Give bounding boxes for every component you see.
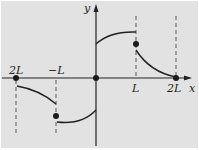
x-axis-arrow-icon [184,76,192,81]
x-axis-label: x [189,82,196,95]
point-origin [93,75,99,81]
point-neg-L [53,113,59,119]
point-2L [173,75,179,81]
segment-neg2L-to-negL [17,86,56,104]
tick-label-neg-L: −L [48,64,65,77]
segment-L-to-2L [136,50,176,77]
segment-0-to-L [96,32,136,44]
tick-label-L: L [131,82,139,95]
tick-label-neg-2L: 2L [8,64,23,77]
plot: y x 2L −L L 2L [0,0,199,150]
y-axis-label: y [83,2,91,15]
point-L [133,41,139,47]
figure: y x 2L −L L 2L [0,0,199,150]
tick-label-2L: 2L [166,82,181,95]
y-axis-arrow-icon [94,4,99,12]
segment-negL-to-0 [57,110,96,123]
